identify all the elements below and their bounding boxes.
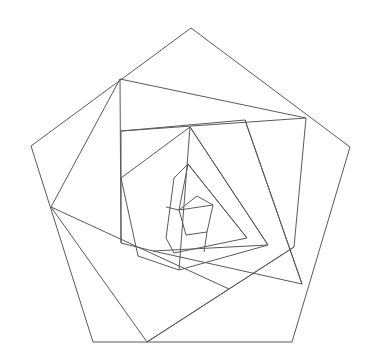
pentagon-spiral-canvas xyxy=(0,0,380,364)
pentagon-spiral-figure xyxy=(0,0,380,364)
figure-background xyxy=(0,0,380,364)
